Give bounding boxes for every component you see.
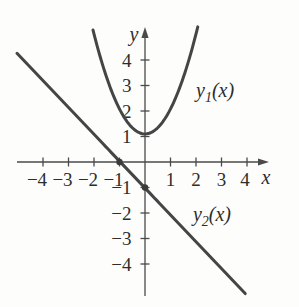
x-tick-label--2: −2 [78, 169, 98, 190]
x-tick-label--3: −3 [52, 169, 72, 190]
y-tick-label--1: −1 [111, 177, 131, 198]
y-tick-label--2: −2 [111, 203, 131, 224]
plot-canvas: −4−3−2−112344321−1−2−3−4xyy1(x)y2(x) [0, 0, 299, 307]
figure-background [0, 0, 299, 307]
y-tick-label--3: −3 [111, 228, 131, 249]
x-tick-label-1: 1 [166, 169, 176, 190]
x-tick-label-2: 2 [191, 169, 201, 190]
y-tick-label-1: 1 [122, 126, 132, 147]
x-axis-label: x [261, 166, 271, 188]
y-tick-label-3: 3 [122, 75, 132, 96]
function-plot-figure: −4−3−2−112344321−1−2−3−4xyy1(x)y2(x) [0, 0, 299, 307]
y-tick-label-4: 4 [122, 50, 132, 71]
y-axis-label: y [128, 23, 139, 46]
intercept-dot-1 [142, 184, 148, 190]
x-tick-label-3: 3 [217, 169, 227, 190]
x-tick-label--4: −4 [27, 169, 48, 190]
intercept-dot-0 [116, 159, 122, 165]
x-tick-label-4: 4 [240, 169, 250, 190]
y-tick-label--4: −4 [111, 254, 132, 275]
